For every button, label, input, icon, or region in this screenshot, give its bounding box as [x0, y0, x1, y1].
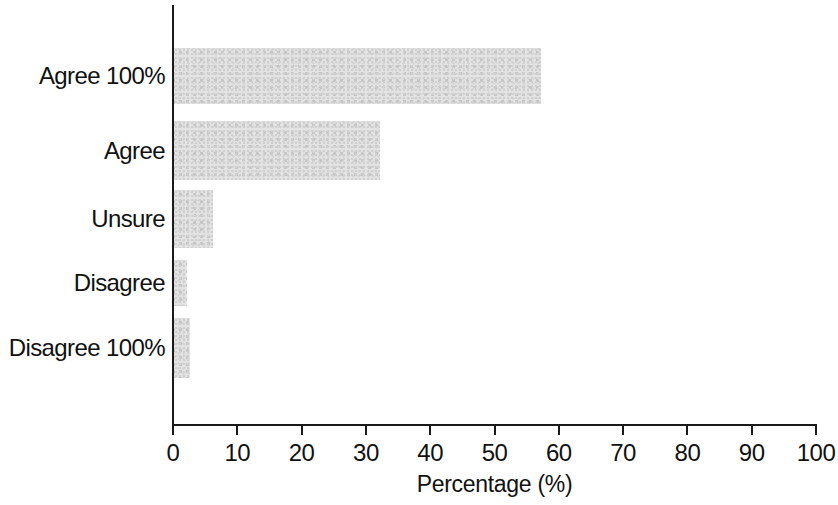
x-axis-tick	[686, 426, 688, 435]
x-axis-tick	[558, 426, 560, 435]
x-axis-tick	[751, 426, 753, 435]
plot-area: Agree 100%AgreeUnsureDisagreeDisagree 10…	[0, 0, 838, 505]
y-axis-category-label: Disagree 100%	[9, 333, 165, 363]
x-axis-tick	[236, 426, 238, 435]
y-axis-category-label: Disagree	[74, 268, 165, 298]
x-axis-tick	[622, 426, 624, 435]
x-axis-tick	[429, 426, 431, 435]
bar	[174, 190, 213, 248]
y-axis-category-label: Agree	[104, 136, 165, 166]
x-axis-tick-label: 100	[776, 438, 838, 468]
bar	[174, 318, 190, 378]
y-axis-category-label: Agree 100%	[39, 61, 165, 91]
x-axis-tick	[494, 426, 496, 435]
x-axis-tick	[301, 426, 303, 435]
bar	[174, 48, 541, 104]
bar	[174, 121, 380, 180]
bar-chart: Agree 100%AgreeUnsureDisagreeDisagree 10…	[0, 0, 838, 505]
x-axis-title: Percentage (%)	[173, 470, 816, 498]
bar	[174, 260, 187, 306]
y-axis-category-label: Unsure	[91, 204, 165, 234]
x-axis-tick	[365, 426, 367, 435]
x-axis-tick	[172, 426, 174, 435]
x-axis-tick	[815, 426, 817, 435]
